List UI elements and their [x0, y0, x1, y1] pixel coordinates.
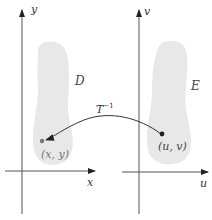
y-axis-label: y	[31, 4, 37, 15]
v-axis-label: v	[144, 6, 150, 17]
mapping-label: T−1	[96, 103, 114, 115]
point-uv-label: (u, v)	[158, 141, 187, 152]
u-axis-label: u	[200, 178, 207, 189]
region-d	[33, 41, 73, 164]
point-xy-label: (x, y)	[41, 149, 69, 160]
mapping-exponent: −1	[103, 102, 113, 110]
point-uv	[160, 132, 165, 137]
region-d-label: D	[75, 75, 85, 87]
point-xy	[40, 139, 44, 143]
region-e-label: E	[191, 80, 200, 92]
x-axis-label: x	[87, 177, 93, 188]
